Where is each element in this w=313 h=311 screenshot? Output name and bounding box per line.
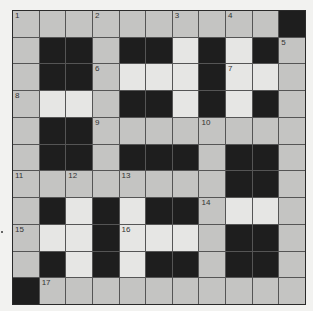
crossword-cell[interactable] — [146, 278, 172, 304]
crossword-cell[interactable] — [279, 118, 305, 144]
crossword-cell[interactable] — [279, 198, 305, 224]
crossword-cell[interactable] — [13, 252, 39, 278]
crossword-cell[interactable]: 10 — [199, 118, 225, 144]
black-square — [173, 252, 199, 278]
crossword-cell[interactable] — [40, 171, 66, 197]
crossword-cell[interactable] — [66, 91, 92, 117]
crossword-cell[interactable] — [120, 118, 146, 144]
crossword-cell[interactable] — [199, 11, 225, 37]
crossword-cell[interactable] — [253, 64, 279, 90]
black-square — [146, 198, 172, 224]
crossword-cell[interactable] — [146, 171, 172, 197]
crossword-cell[interactable] — [13, 38, 39, 64]
crossword-cell[interactable] — [40, 91, 66, 117]
crossword-cell[interactable] — [279, 145, 305, 171]
crossword-cell[interactable] — [226, 91, 252, 117]
crossword-cell[interactable] — [279, 252, 305, 278]
black-square — [120, 145, 146, 171]
black-square — [40, 118, 66, 144]
crossword-cell[interactable] — [93, 278, 119, 304]
crossword-cell[interactable] — [120, 252, 146, 278]
crossword-cell[interactable] — [199, 145, 225, 171]
crossword-cell[interactable] — [13, 198, 39, 224]
crossword-cell[interactable]: 16 — [120, 225, 146, 251]
crossword-cell[interactable] — [173, 171, 199, 197]
crossword-cell[interactable] — [120, 64, 146, 90]
crossword-cell[interactable] — [93, 171, 119, 197]
crossword-cell[interactable] — [13, 64, 39, 90]
crossword-cell[interactable]: 8 — [13, 91, 39, 117]
crossword-cell[interactable]: 9 — [93, 118, 119, 144]
crossword-cell[interactable] — [93, 145, 119, 171]
crossword-cell[interactable] — [279, 278, 305, 304]
crossword-cell[interactable] — [226, 198, 252, 224]
black-square — [93, 252, 119, 278]
crossword-cell[interactable] — [199, 278, 225, 304]
clue-number: 1 — [15, 12, 19, 20]
crossword-cell[interactable]: 1 — [13, 11, 39, 37]
crossword-cell[interactable] — [13, 145, 39, 171]
crossword-cell[interactable] — [173, 118, 199, 144]
crossword-cell[interactable]: 13 — [120, 171, 146, 197]
crossword-cell[interactable] — [279, 91, 305, 117]
crossword-cell[interactable] — [253, 198, 279, 224]
crossword-cell[interactable] — [120, 11, 146, 37]
crossword-cell[interactable] — [199, 252, 225, 278]
crossword-cell[interactable] — [66, 198, 92, 224]
crossword-cell[interactable] — [173, 38, 199, 64]
crossword-cell[interactable]: 14 — [199, 198, 225, 224]
black-square — [253, 145, 279, 171]
black-square — [66, 38, 92, 64]
crossword-cell[interactable] — [93, 91, 119, 117]
clue-number: 7 — [228, 65, 232, 73]
crossword-cell[interactable] — [173, 225, 199, 251]
black-square — [199, 64, 225, 90]
crossword-cell[interactable] — [13, 118, 39, 144]
crossword-cell[interactable]: 3 — [173, 11, 199, 37]
crossword-cell[interactable] — [253, 11, 279, 37]
clue-number: 5 — [281, 39, 285, 47]
crossword-cell[interactable]: 5 — [279, 38, 305, 64]
crossword-cell[interactable] — [40, 225, 66, 251]
crossword-cell[interactable] — [199, 225, 225, 251]
crossword-cell[interactable] — [279, 171, 305, 197]
crossword-cell[interactable] — [120, 198, 146, 224]
crossword-cell[interactable] — [146, 11, 172, 37]
crossword-cell[interactable] — [226, 38, 252, 64]
crossword-cell[interactable] — [93, 38, 119, 64]
crossword-cell[interactable] — [40, 11, 66, 37]
crossword-cell[interactable] — [226, 118, 252, 144]
crossword-cell[interactable] — [253, 278, 279, 304]
crossword-cell[interactable] — [226, 278, 252, 304]
crossword-cell[interactable]: 2 — [93, 11, 119, 37]
crossword-cell[interactable]: 12 — [66, 171, 92, 197]
crossword-cell[interactable] — [253, 118, 279, 144]
black-square — [93, 225, 119, 251]
crossword-cell[interactable] — [66, 252, 92, 278]
crossword-cell[interactable]: 15 — [13, 225, 39, 251]
crossword-cell[interactable]: 6 — [93, 64, 119, 90]
crossword-cell[interactable] — [66, 278, 92, 304]
clue-number: 6 — [95, 65, 99, 73]
crossword-cell[interactable] — [279, 225, 305, 251]
crossword-cell[interactable] — [66, 11, 92, 37]
crossword-cell[interactable] — [199, 171, 225, 197]
crossword-cell[interactable] — [279, 64, 305, 90]
clue-number: 10 — [201, 119, 210, 127]
crossword-cell[interactable]: 7 — [226, 64, 252, 90]
crossword-cell[interactable] — [66, 225, 92, 251]
clue-number: 11 — [15, 172, 23, 180]
crossword-cell[interactable]: 17 — [40, 278, 66, 304]
crossword-cell[interactable]: 11 — [13, 171, 39, 197]
crossword-cell[interactable] — [173, 278, 199, 304]
crossword-cell[interactable] — [173, 91, 199, 117]
crossword-cell[interactable] — [173, 64, 199, 90]
crossword-cell[interactable]: 4 — [226, 11, 252, 37]
crossword-cell[interactable] — [120, 278, 146, 304]
crossword-cell[interactable] — [146, 225, 172, 251]
black-square — [40, 38, 66, 64]
black-square — [13, 278, 39, 304]
crossword-cell[interactable] — [146, 64, 172, 90]
black-square — [253, 252, 279, 278]
crossword-cell[interactable] — [146, 118, 172, 144]
